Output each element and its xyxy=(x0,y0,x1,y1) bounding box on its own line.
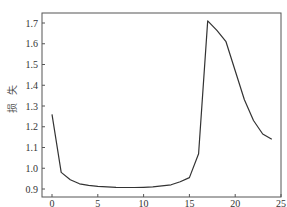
loss-line xyxy=(52,21,272,188)
x-tick-label: 5 xyxy=(95,198,100,207)
x-tick-label: 0 xyxy=(50,198,55,207)
y-axis-ticks: 0.91.01.11.21.31.41.51.61.7 xyxy=(26,18,46,195)
y-tick-label: 1.5 xyxy=(26,59,39,70)
y-tick-label: 1.6 xyxy=(26,38,39,49)
y-tick-label: 1.0 xyxy=(26,163,39,174)
y-tick-label: 1.3 xyxy=(26,101,39,112)
x-tick-label: 20 xyxy=(230,198,240,207)
y-tick-label: 1.2 xyxy=(26,121,39,132)
y-tick-label: 1.7 xyxy=(26,18,39,29)
loss-line-chart: 0.91.01.11.21.31.41.51.61.7 0510152025 失… xyxy=(0,0,287,207)
y-axis-label-char: 损 xyxy=(6,103,18,113)
y-tick-label: 1.1 xyxy=(26,142,39,153)
x-axis-ticks: 0510152025 xyxy=(50,194,287,207)
plot-frame xyxy=(42,13,281,197)
y-axis-label: 失损 xyxy=(6,85,18,113)
x-tick-label: 10 xyxy=(139,198,149,207)
y-tick-label: 0.9 xyxy=(26,184,39,195)
x-tick-label: 15 xyxy=(184,198,194,207)
y-tick-label: 1.4 xyxy=(26,80,39,91)
x-tick-label: 25 xyxy=(276,198,286,207)
data-series xyxy=(52,21,272,188)
y-axis-label-char: 失 xyxy=(6,85,18,95)
